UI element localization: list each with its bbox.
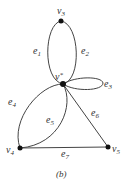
graph-diagram: v3 v* v4 v5 e1 e2 e3 e4 e5 e6 e7 (b) [0, 0, 128, 189]
vertex-v3 [59, 19, 64, 24]
label-e7: e7 [61, 148, 69, 161]
edge-e3 [63, 78, 103, 90]
vertex-v4 [18, 146, 23, 151]
edge-e6 [63, 84, 108, 147]
edge-e4 [18, 84, 63, 148]
label-v5: v5 [112, 143, 120, 156]
label-e5: e5 [46, 114, 54, 127]
label-e6: e6 [91, 107, 99, 120]
edge-e2 [61, 21, 76, 84]
label-vstar: v* [55, 71, 63, 82]
label-e3: e3 [104, 78, 112, 91]
label-e1: e1 [33, 45, 41, 58]
label-v3: v3 [57, 5, 65, 18]
vertex-vstar [60, 81, 66, 87]
label-v4: v4 [6, 144, 14, 157]
vertex-v5 [106, 145, 111, 150]
caption: (b) [56, 169, 67, 179]
label-e2: e2 [81, 45, 89, 58]
edge-e5 [20, 84, 67, 148]
label-e4: e4 [8, 96, 16, 109]
